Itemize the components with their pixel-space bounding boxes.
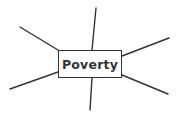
branch-line-top-left bbox=[20, 27, 58, 50]
branch-line-top-right bbox=[122, 38, 169, 56]
center-node-box: Poverty bbox=[58, 50, 122, 78]
branch-line-bottom bbox=[90, 78, 92, 110]
branch-line-top bbox=[92, 8, 96, 50]
mind-map-diagram: Poverty bbox=[0, 0, 177, 115]
center-node-label: Poverty bbox=[62, 57, 118, 72]
branch-line-bottom-left bbox=[10, 72, 58, 89]
branch-line-bottom-right bbox=[122, 75, 168, 94]
